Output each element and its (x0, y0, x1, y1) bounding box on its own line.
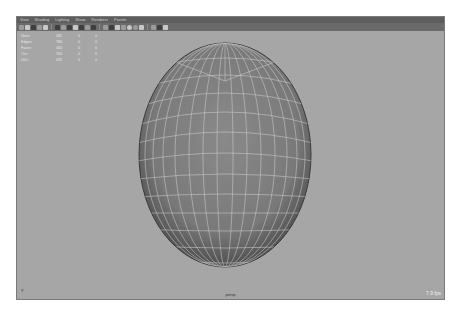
fps-counter: 7.9 fps (426, 290, 441, 296)
shadows-icon[interactable] (133, 25, 138, 30)
grid-icon[interactable] (55, 25, 60, 30)
3d-viewport[interactable]: Verts: 382 0 0 Edges: 780 0 0 Faces: 400… (17, 31, 444, 299)
film-gate-icon[interactable] (61, 25, 66, 30)
hud-extra: 0 (89, 57, 103, 63)
textured-icon[interactable] (121, 25, 126, 30)
use-lights-icon[interactable] (127, 25, 132, 30)
hud-value: 439 (49, 57, 69, 63)
resolution-gate-icon[interactable] (67, 25, 72, 30)
axis-indicator: Y (21, 288, 24, 293)
safe-title-icon[interactable] (91, 25, 96, 30)
camera-arrow-icon[interactable] (163, 25, 168, 30)
default-material-icon[interactable] (115, 25, 120, 30)
poly-count-hud: Verts: 382 0 0 Edges: 780 0 0 Faces: 400… (21, 33, 103, 63)
toolbar-separator (147, 24, 148, 30)
hud-row-uvs: UVs: 439 0 0 (21, 57, 103, 63)
gate-mask-icon[interactable] (73, 25, 78, 30)
image-plane-icon[interactable] (37, 25, 42, 30)
bookmark-icon[interactable] (31, 25, 36, 30)
sphere-mesh[interactable] (137, 41, 313, 269)
viewport-panel: View Shading Lighting Show Renderer Pane… (16, 16, 445, 300)
select-camera-icon[interactable] (19, 25, 24, 30)
arrow-icon[interactable] (43, 25, 48, 30)
safe-action-icon[interactable] (85, 25, 90, 30)
hud-label: UVs: (21, 57, 49, 63)
camera-name-label: persp (225, 292, 235, 297)
ambient-occlusion-icon[interactable] (139, 25, 144, 30)
field-chart-icon[interactable] (79, 25, 84, 30)
viewport-toolbar (17, 23, 444, 31)
toolbar-separator (99, 24, 100, 30)
isolate-select-icon[interactable] (151, 25, 156, 30)
wireframe-icon[interactable] (103, 25, 108, 30)
camera-attributes-icon[interactable] (25, 25, 30, 30)
toolbar-separator (51, 24, 52, 30)
xray-icon[interactable] (157, 25, 162, 30)
smooth-shade-icon[interactable] (109, 25, 114, 30)
hud-selected: 0 (69, 57, 89, 63)
